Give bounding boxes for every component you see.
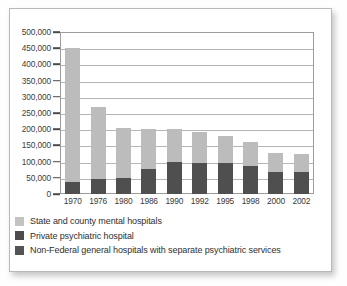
x-axis: 1970197619801986199019921995199820002002 [60,196,314,212]
bar-segment-state-county [268,153,283,172]
x-axis-tick-label: 1998 [238,196,263,212]
bar-slot [212,32,237,194]
y-axis-tick-label: 300,000 [22,92,51,102]
x-axis-tick-label: 1986 [136,196,161,212]
stacked-bar[interactable] [141,129,156,194]
y-axis-tick-label: 500,000 [22,27,51,37]
y-axis-tick-label: 100,000 [22,157,51,167]
bar-slot [111,32,136,194]
bar-segment-non-federal [268,172,283,194]
x-axis-tick-label: 2002 [289,196,314,212]
x-axis-tick-label: 2000 [263,196,288,212]
stacked-bar[interactable] [192,132,207,194]
legend-label: Private psychiatric hospital [30,231,134,241]
x-axis-tick-label: 1976 [85,196,110,212]
bar-slot [60,32,85,194]
x-axis-tick-label: 1995 [212,196,237,212]
bar-slot [289,32,314,194]
x-axis-tick-label: 1992 [187,196,212,212]
bar-slot [238,32,263,194]
bar-segment-state-county [91,107,106,179]
legend-swatch-icon [15,246,24,255]
bar-segment-state-county [65,48,80,182]
bar-segment-non-federal [91,179,106,194]
bar-slot [263,32,288,194]
y-axis-tick [53,47,60,49]
y-axis-tick-label: 250,000 [22,108,51,118]
bar-segment-state-county [192,132,207,163]
y-axis-tick-label: 350,000 [22,76,51,86]
bar-group [60,32,314,194]
stacked-bar[interactable] [65,48,80,194]
stacked-bar[interactable] [218,136,233,194]
y-axis-tick-label: 0 [46,189,51,199]
stacked-bar[interactable] [294,154,309,194]
legend-swatch-icon [15,231,24,240]
y-axis-tick-label: 50,000 [26,173,51,183]
bar-segment-non-federal [294,172,309,194]
x-axis-tick-label: 1970 [60,196,85,212]
y-axis-tick [53,112,60,114]
chart-card: 050,000100,000150,000200,000250,000300,0… [9,8,332,272]
y-axis-tick [53,177,60,179]
bar-slot [136,32,161,194]
bar-segment-non-federal [116,178,131,194]
bar-segment-non-federal [167,162,182,194]
y-axis-tick-label: 150,000 [22,140,51,150]
bar-segment-state-county [141,129,156,169]
chart-legend: State and county mental hospitals Privat… [15,214,326,258]
legend-item: Non-Federal general hospitals with separ… [15,243,326,258]
bar-segment-non-federal [192,163,207,194]
chart-page: 050,000100,000150,000200,000250,000300,0… [0,0,347,286]
bar-segment-state-county [218,136,233,163]
bar-slot [85,32,110,194]
bar-slot [162,32,187,194]
legend-swatch-icon [15,217,24,226]
y-axis-tick [53,128,60,130]
y-axis-tick-label: 450,000 [22,43,51,53]
bar-segment-state-county [167,129,182,161]
bar-segment-non-federal [218,163,233,194]
x-axis-tick-label: 1980 [111,196,136,212]
bar-segment-non-federal [65,182,80,194]
y-axis-tick [53,64,60,66]
bar-slot [187,32,212,194]
stacked-bar[interactable] [243,142,258,194]
stacked-bar[interactable] [116,128,131,194]
y-axis-tick [53,161,60,163]
y-axis-tick [53,80,60,82]
y-axis-tick [53,193,60,195]
stacked-bar[interactable] [167,129,182,194]
y-axis-tick [53,96,60,98]
legend-label: State and county mental hospitals [30,216,162,226]
x-axis-tick-label: 1990 [162,196,187,212]
legend-label: Non-Federal general hospitals with separ… [30,245,281,255]
y-axis-tick [53,31,60,33]
bar-segment-state-county [294,154,309,173]
stacked-bar[interactable] [91,107,106,194]
stacked-bar[interactable] [268,153,283,194]
legend-item: State and county mental hospitals [15,214,326,229]
y-axis-tick-label: 200,000 [22,124,51,134]
bar-segment-state-county [116,128,131,179]
legend-item: Private psychiatric hospital [15,229,326,244]
bar-segment-non-federal [141,169,156,194]
y-axis-tick [53,145,60,147]
y-axis: 050,000100,000150,000200,000250,000300,0… [10,9,60,209]
bar-segment-non-federal [243,166,258,195]
y-axis-tick-label: 400,000 [22,59,51,69]
bar-segment-state-county [243,142,258,166]
